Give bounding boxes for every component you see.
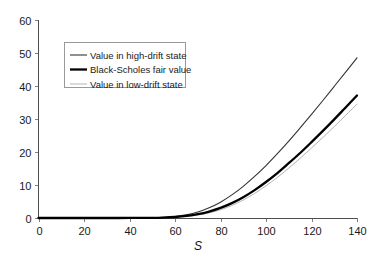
series-line-1 bbox=[39, 96, 358, 218]
y-tick-label: 50 bbox=[19, 48, 31, 60]
legend-label-0: Value in high-drift state bbox=[90, 50, 186, 61]
x-tick-label: 40 bbox=[124, 225, 136, 237]
y-tick-label: 20 bbox=[19, 147, 31, 159]
x-tick-label: 20 bbox=[78, 225, 90, 237]
x-tick-label: 100 bbox=[257, 225, 275, 237]
x-tick-label: 60 bbox=[169, 225, 181, 237]
legend-label-2: Value in low-drift state bbox=[90, 79, 183, 90]
y-tick-label: 40 bbox=[19, 81, 31, 93]
series-line-2 bbox=[39, 104, 358, 218]
chart-container: 0102030405060 020406080100120140 S Value… bbox=[0, 0, 376, 259]
line-chart: 0102030405060 020406080100120140 S Value… bbox=[0, 0, 376, 259]
x-tick-label: 0 bbox=[36, 225, 42, 237]
y-tick-label: 0 bbox=[25, 213, 31, 225]
x-tick-label: 120 bbox=[303, 225, 321, 237]
y-axis-tick-marks bbox=[35, 21, 39, 219]
y-axis-tick-labels: 0102030405060 bbox=[19, 15, 31, 225]
legend-label-1: Black-Scholes fair value bbox=[90, 64, 191, 75]
y-tick-label: 10 bbox=[19, 180, 31, 192]
x-tick-label: 80 bbox=[215, 225, 227, 237]
x-tick-label: 140 bbox=[348, 225, 366, 237]
y-tick-label: 30 bbox=[19, 114, 31, 126]
x-axis-tick-labels: 020406080100120140 bbox=[36, 225, 366, 237]
y-tick-label: 60 bbox=[19, 15, 31, 27]
x-axis-title: S bbox=[194, 239, 202, 253]
chart-legend: Value in high-drift stateBlack-Scholes f… bbox=[65, 43, 192, 90]
